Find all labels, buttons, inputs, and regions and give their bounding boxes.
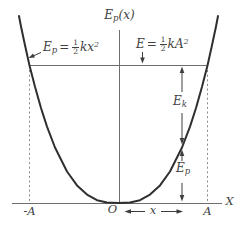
y-axis-title: Ep(x): [104, 9, 134, 21]
fraction-one-half: 12: [72, 39, 79, 56]
diagram-canvas: [0, 0, 240, 228]
pos-amplitude-label: A: [203, 206, 211, 218]
displacement-label: x: [150, 205, 157, 217]
origin-label: O: [108, 204, 117, 216]
kinetic-arrowhead-up-icon: [180, 67, 185, 74]
curve-equation-label: Ep=12kx2: [43, 39, 99, 56]
potential-energy-label: Ep: [176, 162, 190, 174]
total-energy-label: E=12kA2: [136, 36, 189, 53]
neg-amplitude-label: -A: [23, 206, 35, 218]
displacement-arrowhead-right-icon: [177, 209, 184, 214]
potential-arrowhead-down-icon: [180, 195, 185, 202]
total-energy-pointer-arrowhead-icon: [140, 58, 145, 64]
fraction-one-half: 12: [160, 36, 167, 53]
x-axis-label: X: [225, 196, 233, 208]
harmonic-oscillator-energy-diagram: Ep(x) Ep=12kx2 E=12kA2 Ek Ep O x -A A X: [0, 0, 240, 228]
displacement-arrowhead-left-icon: [125, 209, 132, 214]
curve-equation-pointer-arrowhead-icon: [29, 54, 35, 58]
kinetic-energy-label: Ek: [173, 95, 187, 107]
